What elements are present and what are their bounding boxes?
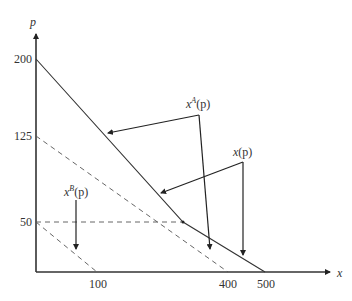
x-tick-100: 100 [89, 277, 107, 291]
xA-arrow-down [199, 115, 210, 249]
label-xB: xB(p) [63, 184, 88, 199]
x-arrow-left [161, 162, 243, 193]
demand-chart: p x 200 125 50 100 400 500 xA(p) x(p) xB… [0, 0, 352, 301]
x-tick-400: 400 [219, 277, 237, 291]
y-axis-label: p [29, 15, 36, 29]
axes [36, 34, 330, 272]
x-tick-500: 500 [257, 277, 275, 291]
y-tick-50: 50 [20, 215, 32, 229]
label-xA: xA(p) [185, 96, 210, 111]
annotation-arrows [76, 115, 243, 255]
xB-demand-line [36, 222, 97, 272]
label-x: x(p) [232, 145, 252, 159]
xA-arrow-left [108, 115, 199, 133]
kink-point [182, 221, 185, 224]
x-axis-label: x [336, 266, 343, 280]
aggregate-demand-line [36, 59, 265, 272]
y-tick-125: 125 [14, 129, 32, 143]
xA-demand-line [36, 136, 228, 272]
y-tick-200: 200 [14, 52, 32, 66]
dashed-lines [36, 136, 228, 272]
